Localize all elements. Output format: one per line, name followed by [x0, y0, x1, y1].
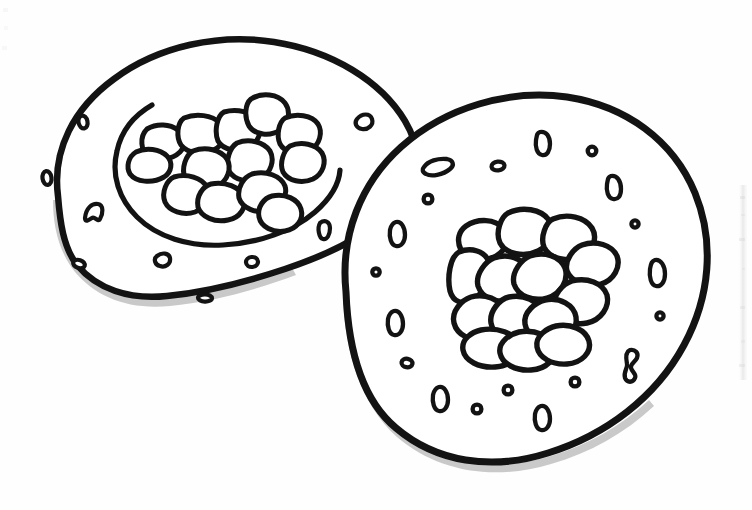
speckle: [390, 222, 405, 246]
topping-piece: [282, 144, 325, 182]
topping-piece: [537, 325, 590, 364]
speckle: [198, 294, 212, 302]
speckle: [356, 115, 373, 130]
speckle: [77, 115, 89, 130]
speckle: [423, 159, 453, 176]
speckle: [656, 312, 663, 319]
speckle: [607, 176, 621, 199]
illustration-canvas: Two Flatbreads Line Drawing: [0, 0, 752, 510]
speckle: [433, 387, 448, 411]
speckle: [473, 405, 482, 414]
speckle: [388, 311, 403, 335]
speckle: [536, 132, 550, 155]
speckle: [372, 268, 379, 275]
topping-piece: [128, 149, 171, 181]
speckle: [401, 358, 413, 368]
flatbread-line-art: [0, 0, 752, 510]
speckle: [42, 170, 53, 185]
speckle: [535, 406, 550, 430]
speckle: [319, 221, 330, 239]
speckle: [571, 378, 580, 387]
speckle: [72, 258, 86, 269]
speckle: [424, 195, 433, 204]
speckle: [155, 254, 170, 267]
speckle: [588, 147, 597, 156]
speckle: [504, 386, 513, 395]
speckle: [246, 256, 259, 267]
speckle: [631, 220, 638, 227]
topping-piece: [259, 195, 302, 231]
speckle: [491, 161, 505, 171]
speckle: [85, 204, 102, 221]
speckle: [650, 260, 665, 286]
